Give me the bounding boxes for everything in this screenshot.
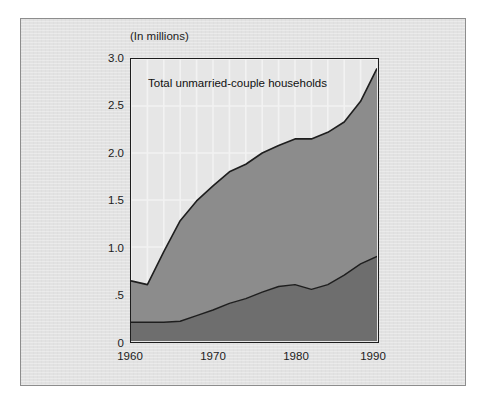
y-tick-1-0: 1.0 — [68, 242, 124, 254]
chart-title: Total unmarried-couple households — [148, 77, 327, 89]
stacked-area-chart — [131, 59, 377, 341]
y-tick-3-0: 3.0 — [68, 52, 124, 64]
x-tick-1990: 1990 — [351, 350, 395, 362]
screenshot-page: (In millions) 3.0 2.5 2.0 1.5 1.0 .5 0 T… — [0, 0, 486, 404]
y-tick-1-5: 1.5 — [68, 194, 124, 206]
y-tick-2-0: 2.0 — [68, 147, 124, 159]
x-tick-1960: 1960 — [108, 350, 152, 362]
x-tick-1980: 1980 — [274, 350, 318, 362]
y-axis-tick-labels: 3.0 2.5 2.0 1.5 1.0 .5 0 — [66, 0, 124, 404]
plot-area — [130, 58, 379, 343]
y-axis-units-label: (In millions) — [130, 30, 189, 42]
y-tick-2-5: 2.5 — [68, 99, 124, 111]
x-tick-1970: 1970 — [191, 350, 235, 362]
y-tick-0-5: .5 — [68, 289, 124, 301]
x-axis-tick-labels: 1960 1970 1980 1990 — [0, 350, 486, 370]
y-tick-0: 0 — [68, 337, 124, 349]
